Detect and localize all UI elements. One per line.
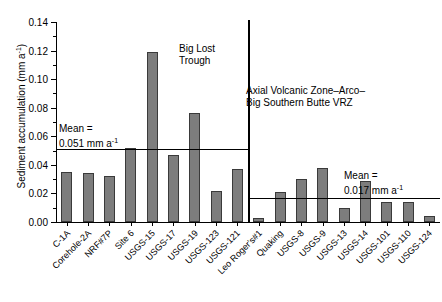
x-axis-tick <box>344 222 345 226</box>
x-axis-tick <box>408 222 409 226</box>
y-axis-tick: 0.14 <box>51 22 56 23</box>
bar <box>296 179 307 222</box>
group-2-mean-exponent: -1 <box>397 184 403 191</box>
bar <box>253 218 264 222</box>
bar <box>317 168 328 222</box>
x-axis-tick <box>301 222 302 226</box>
y-axis-title-exponent: -1 <box>15 47 22 53</box>
x-axis-tick <box>323 222 324 226</box>
group-2-mean-label-line-1: Mean = <box>344 170 403 182</box>
group-2-annotation-line-2: Big Southern Butte VRZ <box>246 97 365 109</box>
y-axis-tick: 0.10 <box>51 79 56 80</box>
bar <box>211 191 222 222</box>
y-axis-title: Sediment accumulation (mm a-1) <box>15 16 27 216</box>
y-axis-minor-tick <box>53 208 56 209</box>
group-1-mean-label-line-1: Mean = <box>59 123 118 135</box>
group-1-annotation-line-1: Big Lost <box>179 43 215 55</box>
x-axis-tick <box>67 222 68 226</box>
group-mean-line <box>248 198 440 199</box>
group-2-annotation-line-1: Axial Volcanic Zone–Arco– <box>246 85 365 97</box>
group-2-annotation: Axial Volcanic Zone–Arco– Big Southern B… <box>246 85 365 109</box>
bar <box>189 113 200 222</box>
plot-area: 0.000.020.040.060.080.100.120.14 Big Los… <box>56 22 440 222</box>
bar <box>232 169 243 222</box>
y-axis-line <box>56 22 57 223</box>
x-axis-tick <box>131 222 132 226</box>
y-axis-tick: 0.12 <box>51 51 56 52</box>
bar <box>424 216 435 222</box>
x-axis-tick <box>173 222 174 226</box>
bar <box>275 192 286 222</box>
y-axis-tick: 0.06 <box>51 136 56 137</box>
group-2-mean-value: 0.017 mm a <box>344 185 397 196</box>
y-axis-tick-label: 0.08 <box>29 102 48 113</box>
x-axis-tick <box>280 222 281 226</box>
group-2-mean-label: Mean = 0.017 mm a-1 <box>344 170 403 197</box>
x-axis-tick <box>195 222 196 226</box>
bar <box>168 155 179 222</box>
x-axis-tick <box>216 222 217 226</box>
chart-figure: Sediment accumulation (mm a-1) 0.000.020… <box>0 0 442 302</box>
y-axis-minor-tick <box>53 93 56 94</box>
group-1-annotation: Big Lost Trough <box>179 43 215 67</box>
group-1-mean-label-line-2: 0.051 mm a-1 <box>59 135 118 150</box>
group-2-mean-label-line-2: 0.017 mm a-1 <box>344 182 403 197</box>
bar <box>83 173 94 222</box>
group-1-mean-value: 0.051 mm a <box>59 138 112 149</box>
y-axis-tick: 0.04 <box>51 165 56 166</box>
y-axis-tick-label: 0.14 <box>29 17 48 28</box>
x-axis-tick <box>259 222 260 226</box>
y-axis-tick: 0.00 <box>51 222 56 223</box>
y-axis-tick-label: 0.00 <box>29 217 48 228</box>
y-axis-minor-tick <box>53 179 56 180</box>
y-axis-minor-tick <box>53 36 56 37</box>
x-axis-tick <box>88 222 89 226</box>
y-axis-title-text: Sediment accumulation (mm a <box>16 53 27 188</box>
bar <box>104 176 115 222</box>
y-axis-tick: 0.08 <box>51 108 56 109</box>
x-axis-tick <box>152 222 153 226</box>
group-1-annotation-line-2: Trough <box>179 55 215 67</box>
y-axis-title-tail: ) <box>16 44 27 47</box>
y-axis-minor-tick <box>53 122 56 123</box>
bar <box>147 52 158 222</box>
y-axis-tick-label: 0.06 <box>29 131 48 142</box>
x-axis-tick <box>387 222 388 226</box>
x-axis-tick <box>237 222 238 226</box>
bar <box>381 202 392 222</box>
group-divider <box>248 20 250 223</box>
bar <box>339 208 350 222</box>
y-axis-tick-label: 0.10 <box>29 74 48 85</box>
bar <box>403 202 414 222</box>
x-axis-tick <box>429 222 430 226</box>
y-axis-minor-tick <box>53 65 56 66</box>
y-axis-tick: 0.02 <box>51 193 56 194</box>
bar <box>61 172 72 222</box>
x-axis-tick <box>109 222 110 226</box>
group-1-mean-exponent: -1 <box>112 137 118 144</box>
y-axis-tick-label: 0.12 <box>29 45 48 56</box>
bar <box>125 148 136 222</box>
y-axis-minor-tick <box>53 151 56 152</box>
y-axis-tick-label: 0.04 <box>29 159 48 170</box>
group-1-mean-label: Mean = 0.051 mm a-1 <box>59 123 118 150</box>
x-axis-tick <box>365 222 366 226</box>
y-axis-tick-label: 0.02 <box>29 188 48 199</box>
